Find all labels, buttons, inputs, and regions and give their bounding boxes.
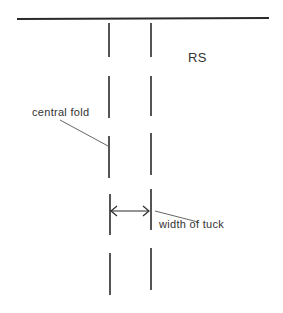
tuck-diagram [0,0,283,313]
rs-label: RS [188,50,207,65]
central-fold-leader [60,120,108,146]
central-fold-label: central fold [32,106,89,118]
fold-line-left [109,23,110,295]
width-arrow [111,206,149,216]
width-of-tuck-label: width of tuck [159,218,224,230]
fabric-edge-line [17,18,269,19]
